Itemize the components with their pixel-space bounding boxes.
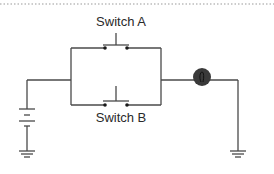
battery-icon — [19, 109, 35, 126]
switch-b-label: Switch B — [96, 111, 147, 124]
switch-a-contacts — [103, 46, 129, 50]
switch-b-contacts — [103, 103, 129, 107]
ground-left-icon — [19, 151, 35, 157]
switch-b-symbol — [103, 86, 129, 101]
switch-a-symbol — [103, 33, 129, 45]
switch-a-label: Switch A — [96, 15, 146, 28]
circuit-diagram: Switch A Switch B — [0, 0, 274, 174]
lamp-icon — [193, 68, 211, 86]
ground-right-icon — [230, 151, 246, 157]
